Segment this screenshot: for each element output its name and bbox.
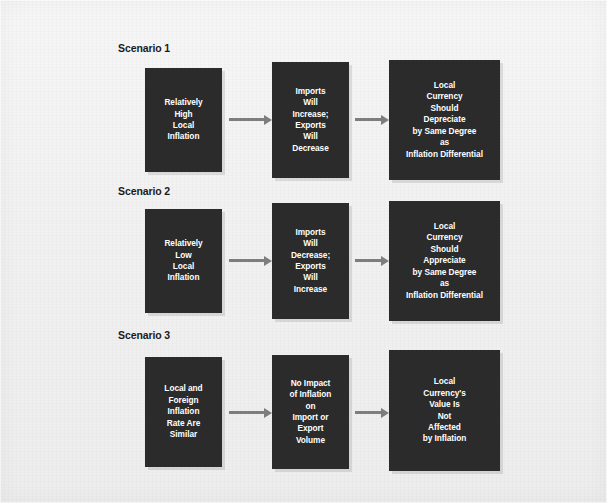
scenario-2-node-2: Imports Will Decrease; Exports Will Incr…	[272, 203, 349, 319]
scenario-3-node-2: No Impact of Inflation on Import or Expo…	[272, 355, 349, 469]
scenario-2-node-1-text: Relatively Low Local Inflation	[164, 238, 202, 284]
scenario-1-node-2: Imports Will Increase; Exports Will Decr…	[272, 62, 349, 178]
scenario-1-node-1-text: Relatively High Local Inflation	[164, 97, 202, 143]
scenario-2-node-3-text: Local Currency Should Appreciate by Same…	[406, 221, 483, 301]
scenario-3-node-3-text: Local Currency's Value Is Not Affected b…	[423, 376, 467, 444]
scenario-2-node-2-text: Imports Will Decrease; Exports Will Incr…	[291, 227, 330, 295]
scenario-label-2: Scenario 2	[118, 185, 170, 197]
scenario-2-node-3: Local Currency Should Appreciate by Same…	[389, 201, 500, 321]
arrowhead-icon	[264, 256, 272, 266]
scenario-2-arrow-1	[229, 259, 265, 262]
scenario-2-node-1: Relatively Low Local Inflation	[145, 209, 222, 313]
scenario-2-arrow-2	[355, 259, 382, 262]
scenario-3-node-1: Local and Foreign Inflation Rate Are Sim…	[145, 357, 222, 467]
arrowhead-icon	[381, 408, 389, 418]
scenario-label-1: Scenario 1	[118, 42, 170, 54]
scenario-1-node-3: Local Currency Should Depreciate by Same…	[389, 60, 500, 180]
scenario-3-arrow-1	[229, 411, 265, 414]
inflation-scenarios-diagram: Scenario 1 Relatively High Local Inflati…	[0, 0, 607, 503]
scenario-1-arrow-2	[355, 118, 382, 121]
scenario-3-node-3: Local Currency's Value Is Not Affected b…	[389, 350, 500, 471]
scenario-1-node-1: Relatively High Local Inflation	[145, 68, 222, 172]
arrowhead-icon	[264, 115, 272, 125]
arrowhead-icon	[264, 408, 272, 418]
scenario-1-node-3-text: Local Currency Should Depreciate by Same…	[406, 80, 483, 160]
scenario-1-arrow-1	[229, 118, 265, 121]
arrowhead-icon	[381, 115, 389, 125]
scenario-3-arrow-2	[355, 411, 382, 414]
scenario-label-3: Scenario 3	[118, 329, 170, 341]
scenario-3-node-1-text: Local and Foreign Inflation Rate Are Sim…	[164, 383, 202, 440]
scenario-1-node-2-text: Imports Will Increase; Exports Will Decr…	[292, 86, 329, 154]
scenario-3-node-2-text: No Impact of Inflation on Import or Expo…	[290, 378, 332, 446]
arrowhead-icon	[381, 256, 389, 266]
